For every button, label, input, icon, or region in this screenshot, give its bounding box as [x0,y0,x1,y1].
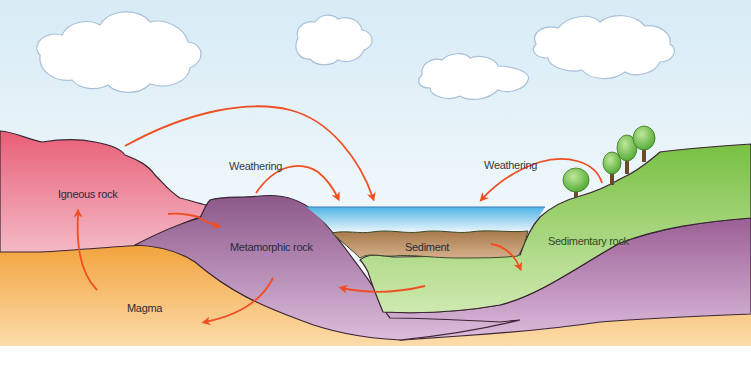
water-body [306,207,545,232]
weathering-label-right: Weathering [484,159,537,171]
magma-label: Magma [127,302,163,314]
igneous-rock-label: Igneous rock [58,188,118,200]
diagram-canvas: Igneous rock Metamorphic rock Magma Sedi… [0,0,751,367]
metamorphic-rock-label: Metamorphic rock [230,241,313,253]
sediment-label: Sediment [405,241,449,253]
weathering-label-left: Weathering [229,160,282,172]
sedimentary-rock-label: Sedimentary rock [548,235,630,247]
rock-cycle-diagram: Igneous rock Metamorphic rock Magma Sedi… [0,0,751,367]
